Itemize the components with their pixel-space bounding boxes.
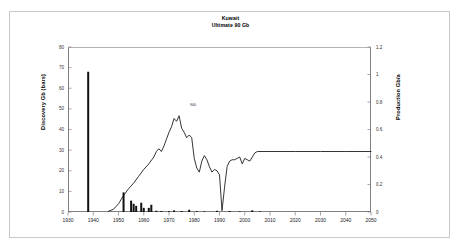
y-tick-left: 40 (42, 127, 64, 132)
y-tick-left: 0 (42, 210, 64, 215)
chart-title: Kuwait (10, 15, 451, 22)
y-tick-right: 0.4 (376, 155, 398, 160)
x-tick: 2050 (356, 217, 386, 223)
y-tick-left: 20 (42, 168, 64, 173)
chart-frame: Kuwait Ultimate 90 Gb Discovery Gb (bars… (9, 11, 450, 238)
y-tick-right: 0 (376, 210, 398, 215)
y-tick-right: 0.6 (376, 127, 398, 132)
chart-subtitle: Ultimate 90 Gb (10, 22, 451, 29)
y-tick-left: 10 (42, 189, 64, 194)
y-tick-right: 1.2 (376, 45, 398, 50)
y-tick-left: 70 (42, 65, 64, 70)
y-tick-right: 0.8 (376, 100, 398, 105)
y-tick-left: 60 (42, 86, 64, 91)
y-tick-right: 0.2 (376, 182, 398, 187)
y-tick-left: 50 (42, 106, 64, 111)
left-axis-title-text: Discovery Gb (bars) (40, 74, 46, 130)
chart-annotation: 900 (190, 103, 196, 107)
plot-area: 01020304050607080 00.20.40.60.811.2 1930… (68, 47, 371, 212)
chart-data-layer (68, 47, 371, 212)
y-tick-left: 30 (42, 148, 64, 153)
y-tick-right: 1 (376, 72, 398, 77)
right-axis-title-text: Production Gb/a (395, 74, 401, 120)
y-tick-left: 80 (42, 45, 64, 50)
